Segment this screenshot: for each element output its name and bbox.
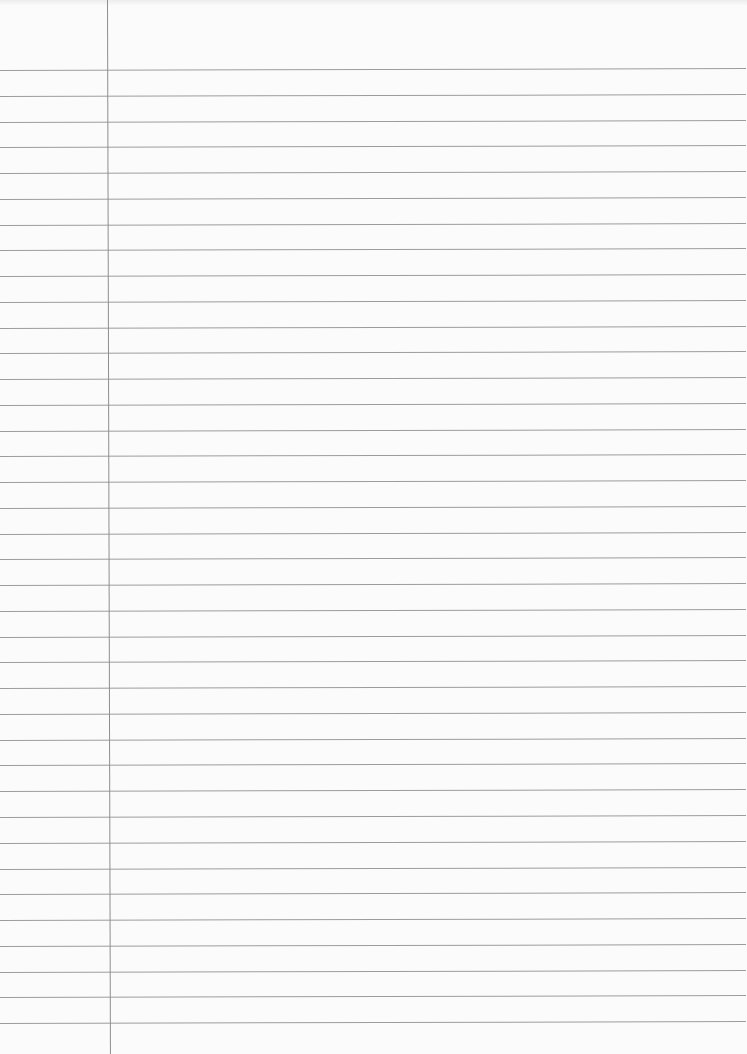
- ruled-line: [0, 326, 746, 329]
- ruled-line: [0, 248, 746, 251]
- ruled-line: [0, 686, 746, 689]
- scan-edge-noise: [0, 0, 747, 6]
- ruled-line: [0, 660, 746, 663]
- ruled-line: [0, 918, 746, 921]
- ruled-line: [0, 351, 746, 354]
- lined-paper-sheet: [0, 0, 747, 1054]
- ruled-line: [0, 738, 746, 741]
- ruled-line: [0, 94, 746, 97]
- ruled-line: [0, 532, 746, 535]
- ruled-line: [0, 970, 746, 973]
- ruled-line: [0, 944, 746, 947]
- ruled-line: [0, 429, 746, 432]
- ruled-line: [0, 403, 746, 406]
- ruled-line: [0, 841, 746, 844]
- ruled-line: [0, 557, 746, 560]
- ruled-line: [0, 815, 746, 818]
- ruled-line: [0, 506, 746, 509]
- ruled-line: [0, 145, 746, 148]
- ruled-line: [0, 68, 746, 71]
- ruled-line: [0, 223, 746, 226]
- ruled-line: [0, 454, 746, 457]
- ruled-line: [0, 995, 746, 998]
- margin-line: [107, 0, 111, 1054]
- ruled-line: [0, 171, 746, 174]
- ruled-line: [0, 892, 746, 895]
- ruled-line: [0, 197, 746, 200]
- ruled-line: [0, 789, 746, 792]
- ruled-line: [0, 480, 746, 483]
- ruled-line: [0, 712, 746, 715]
- ruled-line: [0, 763, 746, 766]
- ruled-line: [0, 583, 746, 586]
- ruled-line: [0, 377, 746, 380]
- ruled-line: [0, 300, 746, 303]
- ruled-line: [0, 609, 746, 612]
- ruled-line: [0, 867, 746, 870]
- ruled-line: [0, 274, 746, 277]
- ruled-line: [0, 635, 746, 638]
- ruled-line: [0, 120, 746, 123]
- ruled-line: [0, 1021, 746, 1024]
